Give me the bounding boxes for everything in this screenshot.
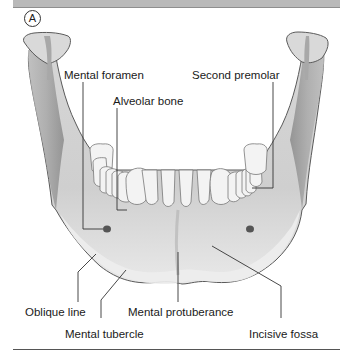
label-second-premolar: Second premolar <box>192 69 280 81</box>
leader-oblique-line <box>78 254 96 302</box>
label-mental-tubercle: Mental tubercle <box>65 328 144 340</box>
right-mental-foramen <box>246 226 254 233</box>
label-oblique-line: Oblique line <box>25 306 86 318</box>
label-alveolar-bone: Alveolar bone <box>113 95 183 107</box>
label-incisive-fossa: Incisive fossa <box>249 328 318 340</box>
left-mental-foramen <box>103 226 111 233</box>
label-mental-protuberance: Mental protuberance <box>128 306 233 318</box>
label-mental-foramen: Mental foramen <box>64 69 144 81</box>
bottom-divider <box>13 349 340 350</box>
